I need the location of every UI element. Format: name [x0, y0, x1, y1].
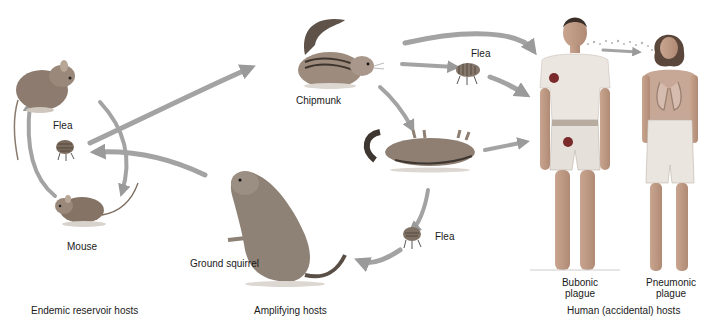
arrow-chipmunk-to-flea — [402, 64, 455, 67]
group-label-endemic: Endemic reservoir hosts — [31, 305, 138, 316]
mouse-illustration — [55, 183, 138, 227]
arrow-chipmunk-to-bubonic — [405, 34, 533, 50]
bubonic-label-line2: plague — [555, 288, 605, 299]
arrow-flea-to-chipmunk — [90, 68, 250, 143]
flea-bottom-illustration — [403, 227, 421, 249]
group-label-human: Human (accidental) hosts — [567, 305, 680, 316]
mouse-label: Mouse — [67, 241, 97, 252]
flea-top-illustration — [456, 63, 480, 85]
ground-squirrel-label: Ground squirrel — [190, 258, 259, 269]
chipmunk-label: Chipmunk — [296, 95, 341, 106]
pneumonic-plague-woman-illustration — [642, 35, 698, 271]
arrow-flea-to-squirrel — [360, 250, 400, 262]
arrow-dead-to-flea — [412, 190, 428, 230]
bubonic-plague-label: Bubonic plague — [555, 277, 605, 299]
flea-top-label: Flea — [471, 48, 490, 59]
arrow-mouse-to-rodent — [29, 104, 55, 196]
flea-bottom-label: Flea — [435, 231, 454, 242]
arrow-squirrel-to-flea — [96, 152, 205, 175]
flea-left-label: Flea — [53, 120, 72, 131]
bubonic-plague-man-illustration — [530, 18, 620, 271]
arrow-rodent-to-mouse — [100, 102, 127, 192]
pneumonic-label-line2: plague — [640, 288, 702, 299]
dead-chipmunk-illustration — [367, 130, 475, 173]
arrow-dead-to-bubonic — [485, 142, 525, 150]
group-label-amplifying: Amplifying hosts — [254, 305, 327, 316]
arrow-bubonic-to-pneumonic — [603, 50, 638, 52]
aerosol-spray — [587, 40, 653, 51]
pneumonic-label-line1: Pneumonic — [640, 277, 702, 288]
flea-left-illustration — [56, 140, 74, 161]
ground-squirrel-illustration — [228, 171, 345, 287]
chipmunk-illustration — [298, 19, 384, 89]
arrow-flea-to-bubonic — [490, 77, 525, 94]
pneumonic-plague-label: Pneumonic plague — [640, 277, 702, 299]
arrow-chipmunk-to-dead — [380, 87, 412, 128]
bubonic-label-line1: Bubonic — [555, 277, 605, 288]
